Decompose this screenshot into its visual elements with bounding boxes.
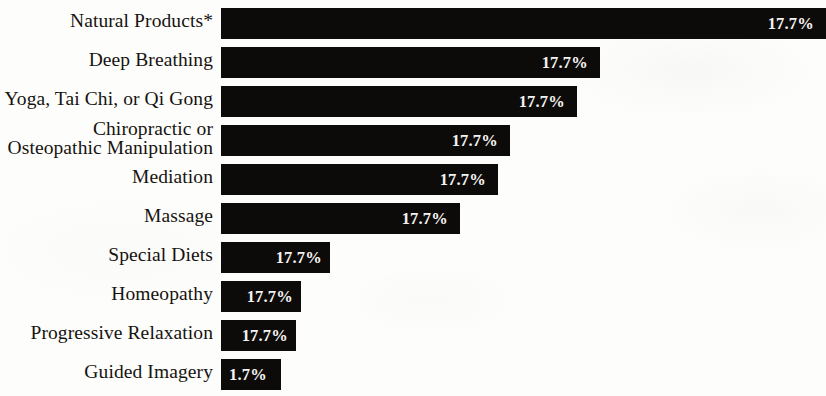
bar: 17.7%	[221, 125, 510, 156]
bar-category-label: Chiropractic or Osteopathic Manipulation	[0, 119, 213, 157]
bar-category-label: Natural Products*	[0, 11, 213, 30]
bar-category-label: Massage	[0, 206, 213, 225]
bar: 17.7%	[221, 203, 460, 234]
bar: 17.7%	[221, 281, 301, 312]
bar: 1.7%	[221, 359, 281, 390]
bar: 17.7%	[221, 86, 577, 117]
bar-category-label: Mediation	[0, 167, 213, 186]
bar-category-label: Guided Imagery	[0, 362, 213, 381]
bar-value-label: 17.7%	[519, 92, 577, 112]
bar-value-label: 17.7%	[452, 131, 510, 151]
bar: 17.7%	[221, 320, 296, 351]
bar-category-label: Special Diets	[0, 245, 213, 264]
horizontal-bar-chart: Natural Products* 17.7% Deep Breathing 1…	[0, 0, 826, 396]
bar-category-label: Deep Breathing	[0, 50, 213, 69]
bar-value-label: 1.7%	[221, 365, 267, 385]
bar-value-label: 17.7%	[542, 53, 600, 73]
bar: 17.7%	[221, 164, 498, 195]
bar-value-label: 17.7%	[247, 287, 301, 307]
bar-category-label: Yoga, Tai Chi, or Qi Gong	[0, 89, 213, 108]
bar-category-label: Homeopathy	[0, 284, 213, 303]
bar: 17.7%	[221, 47, 600, 78]
bar: 17.7%	[221, 242, 330, 273]
bar: 17.7%	[221, 8, 826, 39]
bar-category-label: Progressive Relaxation	[0, 323, 213, 342]
bar-value-label: 17.7%	[402, 209, 460, 229]
bar-value-label: 17.7%	[276, 248, 330, 268]
bar-value-label: 17.7%	[768, 14, 826, 34]
bar-value-label: 17.7%	[440, 170, 498, 190]
bar-value-label: 17.7%	[242, 326, 296, 346]
